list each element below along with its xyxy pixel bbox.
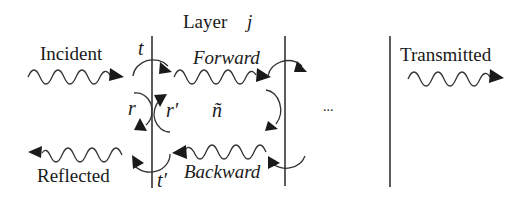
incident-label: Incident — [40, 44, 102, 63]
coefficient-r-prime: r′ — [166, 100, 178, 120]
coefficient-t: t — [138, 38, 144, 58]
reflection-arc-r — [134, 93, 152, 131]
transmitted-label: Transmitted — [400, 45, 491, 64]
forward-label: Forward — [193, 48, 260, 67]
transmission-arc-interface-2-top — [268, 61, 307, 76]
coefficient-r: r — [128, 98, 136, 118]
coefficient-t-prime: t′ — [157, 170, 167, 190]
transmitted-wave-arrow — [408, 69, 504, 86]
refractive-index-n-tilde: ñ — [212, 100, 222, 120]
ellipsis: ... — [323, 100, 334, 114]
thin-film-layer-diagram: Layer j Incident Reflected Transmitted F… — [0, 0, 532, 202]
reflected-label: Reflected — [37, 166, 110, 185]
reflection-arc-interface-2 — [265, 90, 281, 131]
transmission-arc-interface-2-bottom — [268, 156, 305, 169]
backward-wave-arrow — [172, 145, 266, 159]
backward-label: Backward — [184, 162, 260, 181]
layer-title: Layer — [183, 12, 227, 31]
reflected-wave-arrow — [28, 146, 122, 162]
layer-index-j: j — [247, 12, 252, 31]
incident-wave-arrow — [28, 68, 124, 84]
forward-wave-arrow — [174, 68, 271, 84]
